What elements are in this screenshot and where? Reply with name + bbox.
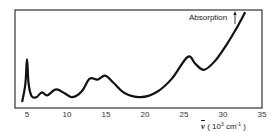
x-tick-30: 30	[219, 111, 228, 119]
x-tick-15: 15	[102, 111, 111, 119]
x-tick-20: 20	[141, 111, 150, 119]
x-unit-pre: ( 10	[205, 122, 221, 131]
x-unit-close: )	[241, 122, 246, 131]
y-axis-label: Absorption	[189, 13, 227, 22]
arrow-head-icon	[233, 11, 236, 15]
plot-frame	[15, 10, 262, 108]
x-axis-label: ν ( 103 cm-1 )	[201, 120, 246, 131]
x-tick-10: 10	[63, 111, 72, 119]
absorption-chart	[0, 0, 279, 132]
x-tick-35: 35	[258, 111, 267, 119]
x-unit-post: cm	[224, 122, 237, 131]
x-tick-25: 25	[180, 111, 189, 119]
x-tick-5: 5	[25, 111, 29, 119]
absorption-curve	[22, 13, 245, 101]
